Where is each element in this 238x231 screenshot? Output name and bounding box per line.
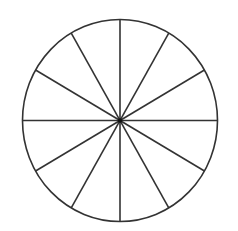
- center-point: [118, 118, 122, 122]
- divided-circle-diagram: [0, 0, 238, 231]
